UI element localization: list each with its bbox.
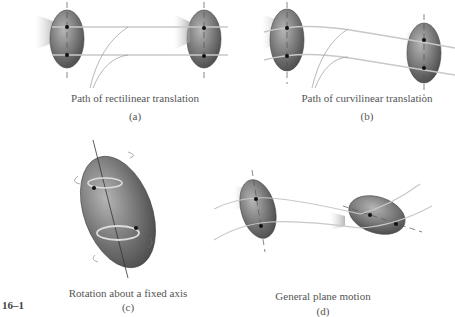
rigid-body-start — [234, 176, 282, 243]
caption-d: General plane motion — [275, 290, 370, 302]
leader-line — [90, 27, 128, 88]
rigid-body-start — [270, 9, 304, 71]
caption-a: Path of rectilinear translation — [71, 92, 199, 104]
label-d: (d) — [317, 305, 330, 317]
caption-c: Rotation about a fixed axis — [69, 287, 188, 299]
rigid-body-end — [187, 10, 221, 68]
point-a1 — [65, 25, 69, 29]
label-c: (c) — [122, 301, 134, 313]
panel-b-curvilinear — [262, 2, 455, 96]
rigid-body-start — [50, 10, 84, 68]
point-b2 — [202, 54, 206, 58]
panel-c-rotation — [66, 140, 170, 278]
caption-b: Path of curvilinear translation — [301, 92, 432, 104]
point-b1 — [65, 53, 69, 57]
panel-d-general-plane — [214, 170, 432, 252]
label-a: (a) — [129, 110, 141, 122]
rotating-body — [66, 146, 170, 278]
label-b: (b) — [361, 110, 374, 122]
panel-a-rectilinear — [35, 2, 228, 88]
figure-number: 16–1 — [2, 299, 24, 311]
point-a2 — [202, 26, 206, 30]
